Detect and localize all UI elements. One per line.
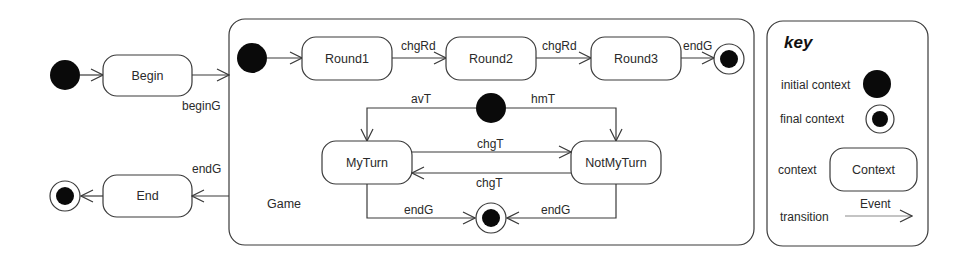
begin-label: Begin <box>103 55 192 96</box>
myturn-to-notmyturn-label: chgT <box>477 138 504 150</box>
round1-to-round2-label: chgRd <box>401 40 436 52</box>
round2-to-round3-label: chgRd <box>542 40 577 52</box>
initial-state-icon <box>50 60 80 90</box>
initial-to-notmyturn-label: hmT <box>531 93 555 105</box>
notmyturn-to-final-label: endG <box>541 204 570 216</box>
myturn-to-final-label: endG <box>404 204 433 216</box>
key-initial-context-label: initial context <box>781 79 850 91</box>
initial-to-notmyturn-arrow <box>506 108 616 141</box>
rounds-final-state-icon <box>714 44 744 74</box>
initial-to-myturn-label: avT <box>411 93 431 105</box>
key-transition-label: transition <box>780 211 829 223</box>
myturn-label: MyTurn <box>322 141 412 184</box>
key-transition-event-label: Event <box>860 198 891 210</box>
turn-final-state-icon <box>476 203 506 233</box>
initial-to-myturn-arrow <box>367 108 476 141</box>
key-context-sample-label: Context <box>830 148 917 191</box>
key-final-context-icon <box>866 105 894 133</box>
key-title: key <box>784 33 812 53</box>
key-context-label: context <box>778 164 817 176</box>
round3-to-final-label: endG <box>683 40 712 52</box>
begin-to-game-label: beginG <box>182 100 221 112</box>
game-initial-state-icon <box>237 43 267 73</box>
game-to-end-label: endG <box>192 163 221 175</box>
final-state-icon <box>50 181 80 211</box>
notmyturn-to-myturn-label: chgT <box>476 177 503 189</box>
turn-initial-state-icon <box>476 93 506 123</box>
end-label: End <box>103 175 192 217</box>
key-initial-context-icon <box>863 70 891 98</box>
round2-label: Round2 <box>446 37 536 80</box>
key-final-context-label: final context <box>780 113 844 125</box>
round3-label: Round3 <box>591 37 681 80</box>
game-label: Game <box>267 198 301 211</box>
notmyturn-label: NotMyTurn <box>571 141 661 184</box>
round1-label: Round1 <box>302 37 392 80</box>
